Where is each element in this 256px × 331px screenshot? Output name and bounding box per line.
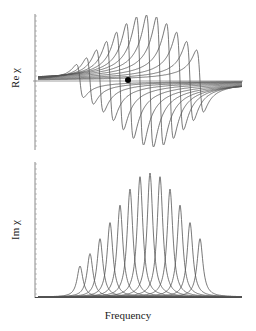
im-chi-curve — [38, 177, 242, 297]
im-chi-curve — [38, 173, 242, 297]
im-chi-curve — [38, 239, 242, 297]
data-point-marker — [125, 77, 131, 83]
im-chi-curve — [38, 189, 242, 297]
figure: Re χ Im χ Frequency — [0, 0, 256, 331]
plot-canvas — [0, 0, 256, 331]
im-chi-curve — [38, 254, 242, 297]
im-chi-curve — [38, 177, 242, 297]
re-chi-axis-label: Re χ — [9, 63, 21, 93]
re-chi-panel — [33, 14, 243, 150]
im-chi-curve — [38, 189, 242, 297]
im-chi-axis-label: Im χ — [9, 215, 21, 245]
im-chi-panel — [35, 162, 242, 298]
im-chi-curves — [38, 173, 242, 297]
frequency-axis-label: Frequency — [0, 309, 256, 321]
im-chi-curve — [38, 239, 242, 297]
